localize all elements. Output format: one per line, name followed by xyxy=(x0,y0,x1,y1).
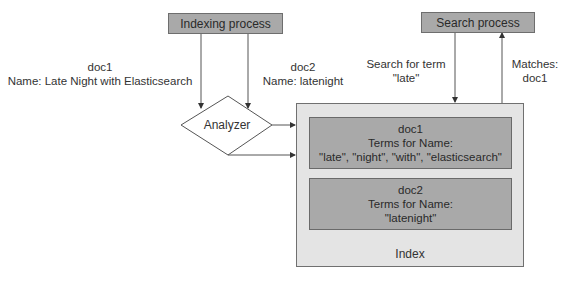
doc1-input-label: doc1 Name: Late Night with Elasticsearch xyxy=(0,60,200,88)
search-process-box: Search process xyxy=(421,12,535,33)
matches-doc: doc1 xyxy=(505,71,565,85)
index-doc1-terms: "late", "night", "with", "elasticsearch" xyxy=(319,150,502,164)
analyzer-label: Analyzer xyxy=(181,118,273,132)
index-label: Index xyxy=(297,247,523,261)
doc2-input-name: Name: latenight xyxy=(258,74,348,88)
index-doc2-title: doc2 xyxy=(398,183,423,197)
search-process-label: Search process xyxy=(436,16,519,30)
index-doc2-subtitle: Terms for Name: xyxy=(368,197,453,211)
index-doc1-box: doc1 Terms for Name: "late", "night", "w… xyxy=(309,117,512,169)
search-query-line1: Search for term xyxy=(365,57,447,71)
index-box: doc1 Terms for Name: "late", "night", "w… xyxy=(296,103,524,267)
doc2-input-label: doc2 Name: latenight xyxy=(258,60,348,88)
index-doc2-box: doc2 Terms for Name: "latenight" xyxy=(309,178,512,230)
indexing-process-box: Indexing process xyxy=(168,13,283,34)
matches-line1: Matches: xyxy=(505,57,565,71)
index-doc1-subtitle: Terms for Name: xyxy=(368,136,453,150)
index-doc1-title: doc1 xyxy=(398,122,423,136)
indexing-process-label: Indexing process xyxy=(180,17,271,31)
search-query-term: "late" xyxy=(365,71,447,85)
doc2-input-title: doc2 xyxy=(258,60,348,74)
index-doc2-terms: "latenight" xyxy=(385,211,437,225)
doc1-input-name: Name: Late Night with Elasticsearch xyxy=(0,74,200,88)
matches-label: Matches: doc1 xyxy=(505,57,565,85)
doc1-input-title: doc1 xyxy=(0,60,200,74)
search-query-label: Search for term "late" xyxy=(365,57,447,85)
